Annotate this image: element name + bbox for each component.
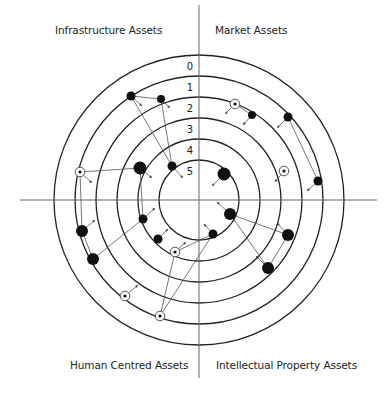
asset-node-icon	[139, 215, 148, 224]
asset-node-icon	[262, 262, 274, 274]
asset-node-icon	[154, 235, 163, 244]
asset-node-icon	[284, 113, 293, 122]
link-line	[93, 219, 143, 259]
link-line	[230, 214, 268, 268]
link-line	[80, 172, 82, 231]
quadrant-label-infrastructure: Infrastructure Assets	[55, 24, 162, 36]
asset-node-icon	[157, 95, 165, 103]
asset-node-icon	[282, 229, 294, 241]
asset-node-icon	[248, 111, 256, 119]
quadrant-label-human-centred: Human Centred Assets	[70, 359, 189, 371]
ring-label-0: 0	[187, 61, 193, 72]
asset-node-icon	[218, 168, 231, 181]
ring-label-5: 5	[187, 166, 193, 177]
asset-node-icon	[76, 225, 88, 237]
asset-node-icon	[314, 177, 323, 186]
link-line	[160, 252, 175, 316]
quadrant-label-market: Market Assets	[215, 24, 287, 36]
asset-node-icon	[134, 162, 147, 175]
link-line	[131, 96, 161, 99]
ring-label-3: 3	[187, 124, 193, 135]
ringed-node-dot-icon	[173, 250, 176, 253]
link-line	[80, 168, 140, 172]
quadrant-label-intellectual-property: Intellectual Property Assets	[216, 359, 357, 371]
asset-node-icon	[168, 162, 177, 171]
link-line	[288, 117, 318, 181]
asset-node-icon	[127, 92, 136, 101]
ringed-node-dot-icon	[78, 170, 81, 173]
asset-node-icon	[87, 253, 99, 265]
ringed-node-dot-icon	[123, 294, 126, 297]
asset-node-icon	[209, 230, 218, 239]
ring-label-1: 1	[187, 82, 193, 93]
quadrant-axes	[20, 5, 377, 378]
ring-label-4: 4	[187, 145, 193, 156]
ringed-node-dot-icon	[158, 314, 161, 317]
ringed-node-dot-icon	[282, 169, 285, 172]
ringed-node-dot-icon	[233, 102, 236, 105]
ring-label-2: 2	[187, 103, 193, 114]
asset-rings-diagram: 012345	[0, 0, 391, 402]
asset-node-icon	[224, 208, 236, 220]
